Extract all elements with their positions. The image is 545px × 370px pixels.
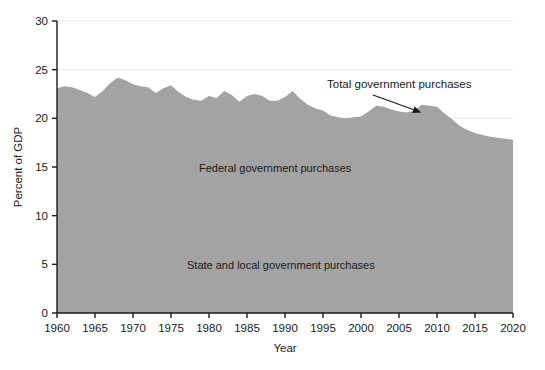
x-tick-label-2000: 2000 — [348, 322, 374, 334]
x-tick-label-2015: 2015 — [462, 322, 488, 334]
x-tick-label-1965: 1965 — [82, 322, 108, 334]
x-tick-label-1995: 1995 — [310, 322, 336, 334]
chart-figure: 051015202530 196019651970197519801985199… — [0, 0, 545, 370]
x-tick-label-2020: 2020 — [500, 322, 526, 334]
x-tick-label-1975: 1975 — [158, 322, 184, 334]
x-tick-label-1985: 1985 — [234, 322, 260, 334]
x-tick-label-1970: 1970 — [120, 322, 146, 334]
label-state-and-local-government-purchases: State and local government purchases — [187, 259, 375, 271]
annotation-total-government-purchases: Total government purchases — [327, 78, 472, 90]
x-tick-label-2010: 2010 — [424, 322, 450, 334]
y-tick-label-5: 5 — [42, 258, 48, 270]
y-tick-label-30: 30 — [35, 15, 48, 27]
x-tick-label-1980: 1980 — [196, 322, 222, 334]
y-tick-label-20: 20 — [35, 112, 48, 124]
y-tick-label-0: 0 — [42, 307, 48, 319]
x-tick-label-1960: 1960 — [44, 322, 70, 334]
label-federal-government-purchases: Federal government purchases — [199, 162, 352, 174]
y-tick-label-25: 25 — [35, 64, 48, 76]
government-purchases-area-chart: 051015202530 196019651970197519801985199… — [0, 0, 545, 370]
x-tick-label-1990: 1990 — [272, 322, 298, 334]
x-axis-title: Year — [273, 342, 296, 354]
y-axis-title: Percent of GDP — [12, 126, 24, 207]
y-tick-label-10: 10 — [35, 210, 48, 222]
y-tick-label-15: 15 — [35, 161, 48, 173]
x-tick-label-2005: 2005 — [386, 322, 412, 334]
